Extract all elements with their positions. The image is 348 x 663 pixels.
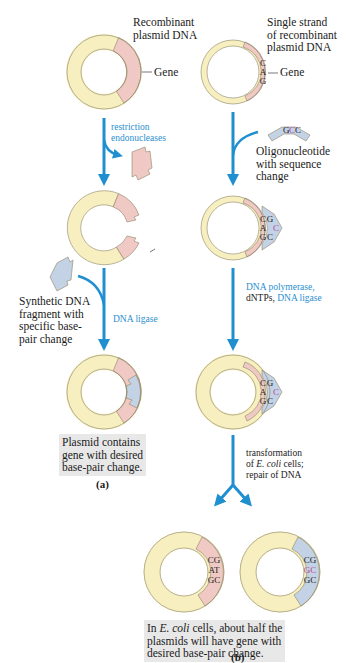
result-caption-a: Plasmid contains gene with desired base-… (59, 434, 146, 476)
gene-label-a: Gene (154, 66, 178, 79)
plasmid-b1-single-strand: C A G (201, 40, 267, 104)
svg-text:C: C (273, 223, 279, 233)
svg-text:AT: AT (209, 565, 221, 575)
plasmid-b4-wildtype: CG AT GC (144, 532, 224, 612)
plasmid-b4-mutant: CG GC GC (240, 532, 320, 612)
svg-text:C: C (267, 396, 273, 406)
oligo-base-3: C (295, 125, 301, 135)
panel-label-a: (a) (96, 478, 109, 490)
single-strand-label: Single strand of recombinant plasmid DNA (267, 16, 337, 54)
synthetic-fragment-label: Synthetic DNA fragment with specific bas… (19, 295, 90, 345)
plasmid-a2-cut (67, 191, 139, 265)
svg-text:GC: GC (208, 575, 221, 585)
svg-text:G: G (260, 396, 267, 406)
arrow-b3-left (218, 485, 233, 502)
svg-text:G: G (260, 232, 267, 242)
transformation-label: transformation of E. coli cells; repair … (246, 448, 304, 481)
svg-text:C: C (267, 232, 273, 242)
arrow-b1-branch (233, 132, 258, 155)
synthetic-dna-fragment (50, 257, 73, 291)
svg-text:CG: CG (208, 555, 221, 565)
plasmid-b3-heteroduplex: C A G G C C (196, 355, 282, 429)
svg-text:C: C (273, 387, 279, 397)
dna-polymerase-label: DNA polymerase, dNTPs, DNA ligase (246, 282, 322, 304)
oligonucleotide-label: Oligonucleotide with sequence change (256, 145, 330, 183)
plasmid-a1 (67, 35, 141, 109)
recombinant-plasmid-label: Recombinant plasmid DNA (133, 16, 197, 41)
svg-text:CG: CG (304, 555, 317, 565)
dna-ligase-label-a: DNA ligase (113, 314, 158, 325)
arrow-b3-right (233, 485, 248, 502)
plasmid-a3-mutant (67, 355, 141, 429)
restriction-endonucleases-label: restriction endonucleases (111, 122, 166, 144)
panel-label-b: (b) (231, 651, 244, 663)
plasmid-b2-annealed: C A G G C C (201, 196, 282, 260)
result-caption-b: In E. coli cells, about half the plasmid… (144, 620, 285, 662)
svg-text:GC: GC (304, 565, 317, 575)
excised-gene-fragment (132, 147, 152, 180)
svg-text:G: G (260, 76, 267, 86)
gene-label-b: Gene (280, 66, 304, 79)
svg-text:GC: GC (304, 575, 317, 585)
